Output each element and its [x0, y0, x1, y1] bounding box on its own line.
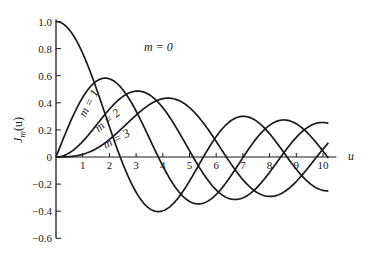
- x-tick-label: 2: [107, 159, 113, 171]
- x-tick-label: 3: [133, 159, 139, 171]
- x-tick-label: 6: [213, 159, 219, 171]
- x-axis-label: u: [348, 149, 354, 163]
- y-tick-label: 0.2: [38, 124, 52, 136]
- curves: [56, 22, 328, 212]
- y-tick-label: −0.4: [32, 205, 52, 217]
- y-tick-label: 0: [47, 151, 53, 163]
- y-tick-label: 0.8: [38, 43, 52, 55]
- y-tick-label: 0.4: [38, 97, 52, 109]
- bessel-chart: 1.00.80.60.40.20−0.2−0.4−0.612345678910 …: [0, 0, 365, 259]
- y-tick-label: 1.0: [38, 16, 52, 28]
- y-tick-label: −0.2: [32, 178, 52, 190]
- series-line-m0: [56, 22, 328, 212]
- x-tick-label: 5: [187, 159, 193, 171]
- curve-label-m0: m = 0: [144, 40, 173, 54]
- y-axis-label: Jm(u): [11, 117, 27, 143]
- y-tick-label: 0.6: [38, 70, 52, 82]
- x-tick-label: 1: [80, 159, 86, 171]
- x-tick-label: 10: [318, 159, 330, 171]
- y-tick-label: −0.6: [32, 232, 52, 244]
- series-line-m2: [56, 91, 328, 199]
- y-axis-label-arg: (u): [11, 117, 25, 131]
- axes: 1.00.80.60.40.20−0.2−0.4−0.612345678910: [32, 16, 336, 245]
